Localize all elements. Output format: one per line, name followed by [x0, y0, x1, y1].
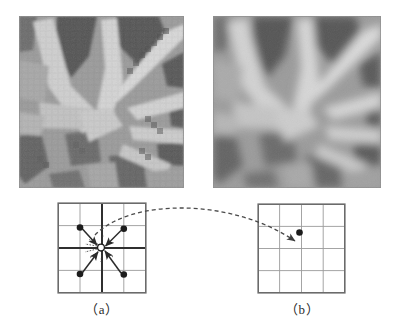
neighbour-top-left [77, 224, 84, 231]
interpolated-point [98, 244, 105, 251]
caption-a: （a） [79, 299, 125, 318]
target-sample-grid-diagram [257, 203, 346, 294]
neighbour-bottom-right [121, 271, 128, 278]
diagram-a-canvas [57, 202, 147, 294]
mapped-output-point [296, 229, 303, 236]
smoothed-leaf-image [213, 16, 381, 188]
pixelated-leaf-image [19, 16, 184, 188]
interpolation-figure: （a） （b） [0, 0, 397, 329]
smoothed-image-canvas [213, 16, 381, 188]
caption-b: （b） [279, 299, 325, 318]
diagram-b-canvas [257, 203, 346, 294]
neighbour-top-right [121, 226, 128, 233]
neighbour-bottom-left [77, 271, 84, 278]
source-sample-grid-diagram [57, 202, 147, 294]
pixelated-image-canvas [19, 16, 184, 188]
